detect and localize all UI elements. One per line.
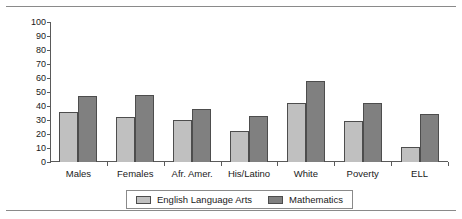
x-axis-label-his-latino: His/Latino [228,168,270,179]
bar-group [221,22,278,162]
ela-swatch-icon [136,196,151,204]
bar [420,114,439,162]
bar [230,131,249,162]
x-axis-label-females: Females [117,168,153,179]
x-tick-mark [448,162,449,166]
bar-group [334,22,391,162]
x-tick-mark [391,162,392,166]
bar-group [277,22,334,162]
y-tick-label-70: 70 [0,60,46,69]
x-axis-label-males: Males [66,168,91,179]
bar [59,112,78,162]
bar [401,147,420,162]
legend-label-math: Mathematics [289,194,343,205]
grouped-bar-chart: 0102030405060708090100 MalesFemalesAfr. … [0,10,462,210]
x-tick-mark [334,162,335,166]
x-tick-mark [164,162,165,166]
legend-label-ela: English Language Arts [157,194,252,205]
y-tick-label-30: 30 [0,116,46,125]
y-tick-label-60: 60 [0,74,46,83]
legend-item-math: Mathematics [268,194,343,205]
x-axis-label-poverty: Poverty [347,168,379,179]
y-tick-label-10: 10 [0,144,46,153]
bar [135,95,154,162]
x-axis-label-afr-amer: Afr. Amer. [172,168,213,179]
y-tick-label-80: 80 [0,46,46,55]
y-tick-label-100: 100 [0,18,46,27]
x-tick-mark [277,162,278,166]
y-tick-label-20: 20 [0,130,46,139]
bar [173,120,192,162]
bar-group [164,22,221,162]
bar [363,103,382,162]
y-tick-label-40: 40 [0,102,46,111]
bar-group [107,22,164,162]
bottom-horizontal-rule [6,210,456,211]
x-axis-label-white: White [294,168,318,179]
y-tick-label-0: 0 [0,158,46,167]
legend-item-ela: English Language Arts [136,194,252,205]
bar [192,109,211,162]
bar [116,117,135,162]
bar [249,116,268,162]
y-tick-label-90: 90 [0,32,46,41]
bar [78,96,97,162]
bar-group [50,22,107,162]
bar [306,81,325,162]
math-swatch-icon [268,196,283,204]
y-tick-mark-0 [47,162,51,163]
top-horizontal-rule [6,6,456,7]
x-axis-label-ell: ELL [411,168,428,179]
y-tick-label-50: 50 [0,88,46,97]
bar-group [391,22,448,162]
x-tick-mark [221,162,222,166]
x-tick-mark [107,162,108,166]
chart-page: 0102030405060708090100 MalesFemalesAfr. … [0,0,462,219]
chart-legend: English Language Arts Mathematics [126,190,353,209]
bar [344,121,363,162]
bar [287,103,306,162]
plot-area: 0102030405060708090100 [50,22,448,162]
